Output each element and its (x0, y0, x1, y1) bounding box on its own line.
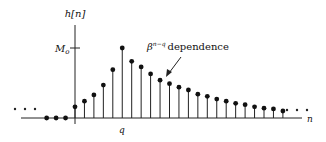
stem-point (233, 101, 238, 106)
stem-point (148, 72, 153, 77)
stem-point (120, 46, 125, 51)
stem-point (139, 65, 144, 70)
stem-point (243, 102, 248, 107)
mo-label: Mo (54, 43, 69, 56)
annotation-arrow-icon (166, 57, 181, 77)
stem-point (73, 104, 78, 109)
stem-point (44, 116, 49, 121)
left-ellipsis (14, 108, 36, 110)
stem-point (101, 83, 106, 88)
stem-point (177, 85, 182, 90)
stem-point (63, 116, 68, 121)
stem-point (224, 99, 229, 104)
y-axis-label: h[n] (65, 8, 86, 19)
stem-point (186, 88, 191, 93)
right-ellipsis (286, 109, 308, 111)
stem-point (262, 106, 267, 111)
stem-point (252, 104, 257, 109)
q-label: q (119, 125, 125, 135)
stem-point (214, 97, 219, 102)
stem-point (158, 78, 163, 83)
stem-point (82, 99, 87, 104)
stem-point (167, 81, 172, 86)
decay-annotation: βn−qdependence (146, 40, 229, 52)
stem-point (271, 107, 276, 112)
stem-plot: h[n] Mo q n βn−qdependence (0, 0, 326, 142)
stem-point (92, 93, 97, 98)
x-axis-label: n (307, 114, 313, 124)
stem-point (205, 94, 210, 99)
stems (44, 46, 285, 121)
stem-point (54, 116, 59, 121)
stem-point (281, 109, 286, 114)
stem-point (110, 67, 115, 72)
stem-point (195, 92, 200, 97)
stem-point (129, 59, 134, 64)
